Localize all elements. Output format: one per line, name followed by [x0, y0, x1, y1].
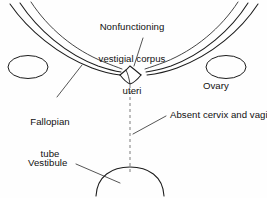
label-fallopian-tube-line1: Fallopian: [10, 117, 90, 128]
anatomical-figure: Nonfunctioning vestigial corpus uteri Ov…: [0, 0, 267, 198]
leader-line-absent-cervix-vagina: [133, 116, 166, 134]
label-corpus-uteri-line1: Nonfunctioning: [86, 22, 178, 33]
left-ovary: [8, 56, 48, 79]
label-corpus-uteri-line3: uteri: [86, 86, 178, 97]
right-ovary: [206, 56, 246, 79]
label-ovary: Ovary: [203, 81, 229, 92]
label-corpus-uteri-line2: vestigial corpus: [86, 54, 178, 65]
label-absent-cervix-vagina: Absent cervix and vagina: [170, 110, 267, 121]
label-corpus-uteri: Nonfunctioning vestigial corpus uteri: [86, 1, 178, 118]
leader-line-fallopian-tube: [57, 65, 82, 97]
label-vestibule: Vestibule: [28, 158, 67, 169]
